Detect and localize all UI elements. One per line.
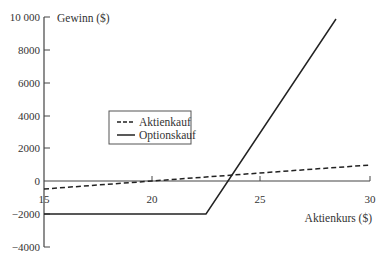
y-tick-8000: 8000 bbox=[18, 44, 41, 56]
y-tick-m4000: −4000 bbox=[12, 241, 41, 253]
y-ticks bbox=[44, 17, 50, 247]
x-axis-title: Aktienkurs ($) bbox=[305, 212, 373, 225]
x-tick-30: 30 bbox=[365, 193, 377, 205]
y-tick-6000: 6000 bbox=[18, 77, 41, 89]
x-tick-25: 25 bbox=[255, 193, 267, 205]
y-axis-title: Gewinn ($) bbox=[57, 12, 110, 25]
y-tick-2000: 2000 bbox=[18, 142, 41, 154]
x-tick-15: 15 bbox=[39, 193, 51, 205]
y-tick-0: 0 bbox=[35, 175, 41, 187]
x-tick-20: 20 bbox=[147, 193, 159, 205]
legend-optionskauf: Optionskauf bbox=[139, 129, 196, 142]
y-tick-m2000: −2000 bbox=[12, 208, 41, 220]
legend: Aktienkauf Optionskauf bbox=[109, 111, 196, 144]
series-aktienkauf bbox=[44, 165, 370, 189]
profit-chart: 10 000 8000 6000 4000 2000 0 −2000 −4000… bbox=[0, 0, 385, 264]
y-tick-10000: 10 000 bbox=[10, 11, 41, 23]
x-ticks bbox=[152, 176, 370, 181]
y-tick-4000: 4000 bbox=[18, 110, 41, 122]
legend-aktienkauf: Aktienkauf bbox=[139, 116, 191, 128]
